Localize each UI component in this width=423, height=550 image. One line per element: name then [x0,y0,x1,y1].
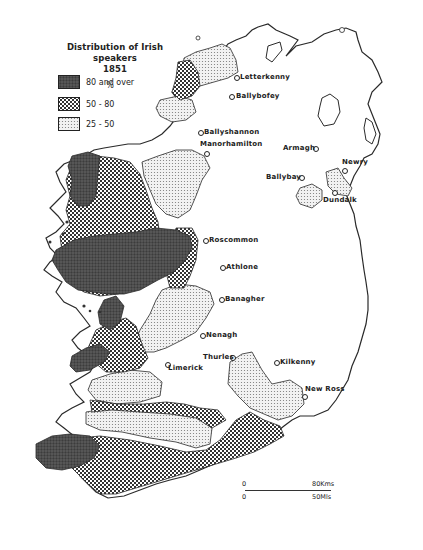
town-new-ross: New Ross [305,385,345,393]
town-roscommon: Roscommon [209,236,259,244]
scale-bar: 0 80Kms 0 50Mls [242,478,334,508]
town-letterkenny: Letterkenny [240,73,290,81]
crosshatch-swatch-icon [58,97,80,111]
island [89,310,92,313]
legend-label: 50 - 80 [86,100,114,109]
town-ballybay: Ballybay [266,173,301,181]
town-ballyshannon: Ballyshannon [204,128,259,136]
town-banagher: Banagher [225,295,265,303]
town-athlone: Athlone [226,263,258,271]
town-ballybofey: Ballybofey [236,92,280,100]
town-armagh: Armagh [283,144,315,152]
irish-speakers-map: Distribution of Irish speakers 1851 % 80… [0,0,423,550]
town-marker-icon [342,168,348,174]
town-limerick: Limerick [168,364,203,372]
town-marker-icon [229,94,235,100]
town-kilkenny: Kilkenny [280,358,316,366]
legend-label: 80 and over [86,78,134,87]
scale-line [245,490,331,491]
island [340,28,345,33]
scale-mi-label: 50Mls [312,493,331,501]
island [65,220,68,223]
island [62,233,65,236]
island [99,311,102,314]
legend-year: 1851 [50,64,180,75]
scale-km-label: 80Kms [312,480,334,488]
legend-label: 25 - 50 [86,120,114,129]
town-manorhamilton: Manorhamilton [200,140,262,148]
legend-item-80-over: 80 and over [58,75,134,89]
legend-item-25-50: 25 - 50 [58,117,114,131]
legend-title: Distribution of Irish speakers [50,42,180,64]
island [82,304,85,307]
island [49,241,52,244]
town-thurles: Thurles [203,353,234,361]
legend-item-50-80: 50 - 80 [58,97,114,111]
town-marker-icon [302,394,308,400]
light-dots-swatch-icon [58,117,80,131]
scale-mi-zero: 0 [242,493,246,501]
town-nenagh: Nenagh [206,331,238,339]
town-newry: Newry [342,158,368,166]
island [196,36,200,40]
town-marker-icon [204,151,210,157]
scale-km-zero: 0 [242,480,246,488]
dark-stipple-swatch-icon [58,75,80,89]
town-dundalk: Dundalk [323,196,357,204]
